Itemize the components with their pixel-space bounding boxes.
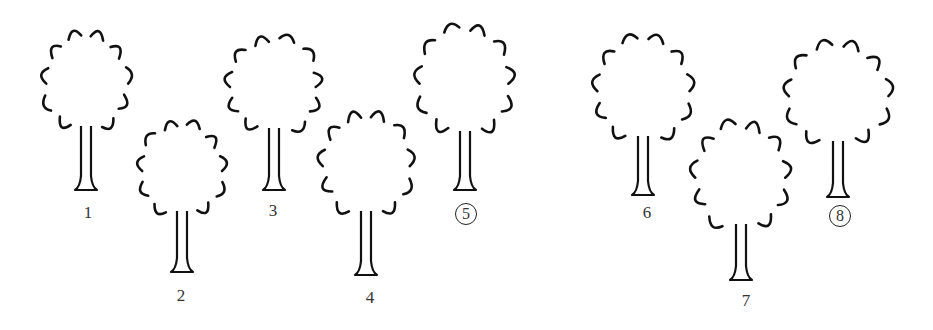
tree-8	[784, 40, 893, 197]
crown-scallop	[348, 112, 361, 122]
crown-scallop	[702, 137, 713, 150]
crown-scallop	[880, 109, 889, 125]
crown-scallop	[603, 51, 614, 64]
crown-scallop	[140, 182, 148, 196]
crown-scallop	[817, 40, 832, 49]
crown-scallop	[856, 130, 869, 142]
crown-scallop	[746, 122, 759, 133]
crown-scallop	[304, 49, 315, 61]
crown-scallop	[759, 214, 771, 226]
tree-figure	[0, 0, 933, 330]
crown-scallop	[672, 51, 683, 64]
trunk	[632, 136, 654, 195]
crown-scallop	[506, 67, 514, 84]
tree-5	[414, 24, 514, 190]
tree-number: 3	[261, 201, 285, 221]
crown-scallop	[197, 203, 208, 214]
crown-scallop	[137, 156, 144, 171]
crown-scallop	[682, 104, 691, 120]
crown-scallop	[649, 35, 664, 44]
crown-scallop	[60, 117, 71, 128]
crown-scallop	[394, 125, 404, 138]
crown-scallop	[806, 131, 819, 143]
crown-scallop	[111, 46, 121, 58]
crown-scallop	[102, 118, 113, 129]
crown-scallop	[318, 150, 325, 166]
tree-3	[225, 35, 323, 190]
crown-scallop	[502, 96, 512, 112]
tree-number: 6	[635, 203, 659, 223]
crown-scallop	[709, 217, 722, 228]
crown-scallop	[867, 57, 879, 70]
crown-scallop	[371, 111, 384, 121]
crown-scallop	[408, 150, 415, 167]
crown-scallop	[217, 182, 225, 196]
crown-scallop	[482, 120, 494, 132]
crown-scallop	[470, 25, 484, 35]
crown-scallop	[596, 103, 606, 118]
trunk	[263, 128, 285, 190]
tree-1	[41, 31, 132, 190]
crown-scallop	[225, 72, 232, 87]
tree-7	[690, 120, 791, 280]
crown-scallop	[69, 31, 82, 40]
crown-scallop	[126, 67, 132, 83]
crown-scallop	[778, 190, 788, 205]
tree-4	[318, 111, 415, 275]
crown-scallop	[206, 136, 216, 148]
trunk	[827, 141, 849, 197]
crown-scallop	[795, 55, 807, 68]
crown-scallop	[784, 80, 792, 97]
crown-scallop	[661, 128, 674, 139]
crown-scallop	[494, 41, 505, 55]
crown-scallop	[886, 79, 893, 96]
crown-scallop	[43, 96, 51, 111]
crown-scallop	[145, 133, 155, 145]
circled-tree-number: 5	[455, 203, 477, 225]
trunk	[355, 211, 377, 275]
trunk	[454, 131, 476, 190]
tree-number: 1	[76, 203, 100, 223]
crown-scallop	[403, 179, 411, 195]
crown-scallop	[187, 121, 200, 129]
tree-6	[592, 34, 694, 195]
tree-number: 7	[734, 291, 758, 311]
tree-number: 2	[169, 286, 193, 306]
crown-scallop	[787, 109, 796, 125]
trunk	[730, 224, 752, 280]
crown-scallop	[235, 50, 246, 62]
crown-scallop	[592, 75, 599, 92]
crown-scallop	[690, 161, 697, 178]
crown-scallop	[310, 98, 319, 112]
crown-scallop	[417, 97, 426, 113]
crown-scallop	[329, 127, 340, 140]
tree-2	[137, 121, 227, 272]
trunk	[75, 126, 97, 190]
crown-scallop	[154, 204, 165, 214]
crown-scallop	[255, 37, 269, 46]
tree-number: 4	[358, 288, 382, 308]
crown-scallop	[165, 121, 177, 130]
crown-scallop	[51, 46, 61, 58]
crown-scallop	[414, 66, 421, 83]
crown-scallop	[721, 120, 736, 129]
crown-scallop	[424, 40, 435, 54]
crown-scallop	[41, 68, 48, 83]
crown-scallop	[229, 98, 238, 112]
crown-scallop	[314, 73, 322, 87]
crown-scallop	[769, 137, 780, 150]
crown-scallop	[322, 177, 332, 191]
crown-scallop	[337, 202, 349, 213]
crown-scallop	[623, 34, 638, 43]
crown-scallop	[695, 189, 705, 204]
crown-scallop	[613, 127, 625, 138]
crown-scallop	[220, 156, 227, 171]
crown-scallop	[844, 41, 859, 51]
crown-scallop	[91, 31, 103, 40]
crown-scallop	[783, 161, 791, 178]
crown-scallop	[436, 119, 448, 132]
trunk	[171, 211, 193, 272]
crown-scallop	[245, 119, 257, 130]
crown-scallop	[383, 202, 395, 213]
crown-scallop	[444, 24, 459, 33]
